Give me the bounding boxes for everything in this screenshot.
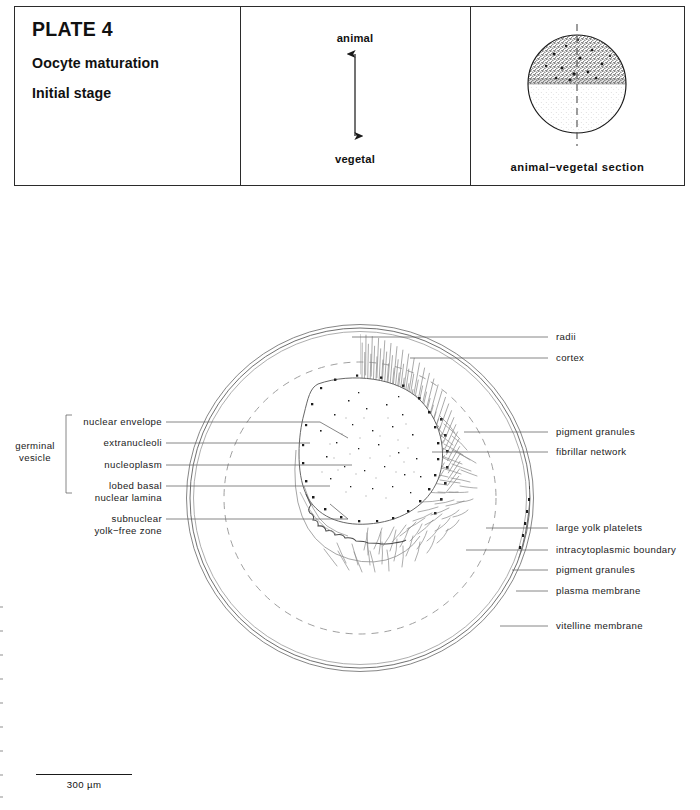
- label-nuclear-envelope: nuclear envelope: [0, 416, 162, 428]
- animal-vegetal-sphere-icon: [470, 6, 685, 186]
- section-legend-cell: animal−vegetal section: [470, 6, 685, 186]
- label-radii: radii: [556, 331, 576, 343]
- label-large-yolk-platelets: large yolk platelets: [556, 522, 642, 534]
- label-plasma-membrane: plasma membrane: [556, 585, 641, 597]
- section-caption: animal−vegetal section: [470, 161, 685, 173]
- label-vitelline-membrane: vitelline membrane: [556, 620, 643, 632]
- page-edge-artifacts: [0, 600, 5, 805]
- plate-subtitle-1: Oocyte maturation: [32, 56, 232, 70]
- scale-bar-label: 300 µm: [36, 779, 132, 790]
- label-pigment-granules-lower: pigment granules: [556, 564, 635, 576]
- plate-number: PLATE 4: [32, 20, 232, 40]
- label-subnuclear-yolk-free-zone: subnuclear yolk−free zone: [0, 513, 162, 536]
- label-pigment-granules-upper: pigment granules: [556, 426, 635, 438]
- label-extranucleoli: extranucleoli: [0, 437, 162, 449]
- scale-bar: [36, 774, 132, 775]
- label-nucleoplasm: nucleoplasm: [0, 459, 162, 471]
- double-headed-arrow-icon: [240, 6, 470, 186]
- title-cell: PLATE 4 Oocyte maturation Initial stage: [32, 20, 232, 116]
- plate-figure: PLATE 4 Oocyte maturation Initial stage …: [0, 0, 700, 810]
- axis-legend-cell: animal vegetal: [240, 6, 470, 186]
- label-cortex: cortex: [556, 352, 584, 364]
- plate-subtitle-2: Initial stage: [32, 86, 232, 100]
- label-fibrillar-network: fibrillar network: [556, 446, 626, 458]
- label-lobed-basal-nuclear-lamina: lobed basal nuclear lamina: [0, 480, 162, 503]
- label-intracytoplasmic-boundary: intracytoplasmic boundary: [556, 544, 676, 556]
